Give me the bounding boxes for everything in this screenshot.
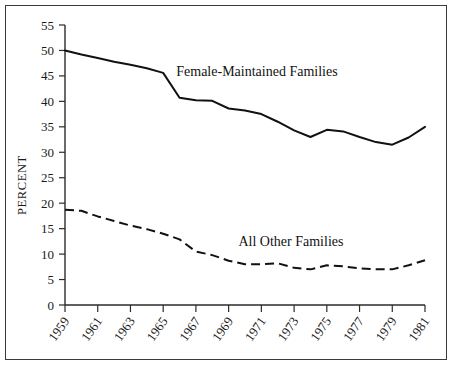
line-chart: 0510152025303540455055 19591961196319651… xyxy=(0,0,452,365)
y-tick-label: 20 xyxy=(41,196,54,211)
x-tick-labels: 1959196119631965196719691971197319751977… xyxy=(45,314,432,344)
y-axis: 0510152025303540455055 xyxy=(41,18,65,313)
series-label-0: Female-Maintained Families xyxy=(176,64,337,79)
y-tick-label: 45 xyxy=(41,68,54,83)
y-tick-label: 10 xyxy=(41,247,54,262)
x-tick-label: 1959 xyxy=(45,314,72,344)
y-tick-label: 30 xyxy=(41,145,54,160)
chart-figure: 0510152025303540455055 19591961196319651… xyxy=(0,0,452,365)
y-tick-label: 50 xyxy=(41,43,54,58)
x-tick-label: 1979 xyxy=(373,314,400,344)
x-tick-label: 1969 xyxy=(209,314,236,344)
y-tick-label: 25 xyxy=(41,170,54,185)
y-tick-label: 15 xyxy=(41,221,54,236)
y-tick-label: 35 xyxy=(41,119,54,134)
x-tick-label: 1977 xyxy=(340,314,367,344)
x-tick-label: 1963 xyxy=(111,314,138,344)
x-tick-label: 1975 xyxy=(307,314,334,344)
x-tick-marks xyxy=(65,305,425,312)
y-tick-label: 0 xyxy=(48,298,55,313)
y-tick-labels: 0510152025303540455055 xyxy=(41,18,54,313)
x-tick-label: 1971 xyxy=(242,314,269,344)
y-axis-title: PERCENT xyxy=(15,155,29,215)
series-annotations: Female-Maintained FamiliesAll Other Fami… xyxy=(176,64,343,249)
y-tick-label: 40 xyxy=(41,94,54,109)
x-tick-label: 1965 xyxy=(143,314,170,344)
x-tick-label: 1961 xyxy=(78,314,105,344)
x-tick-label: 1967 xyxy=(176,314,203,344)
series-label-1: All Other Families xyxy=(238,234,343,249)
x-axis: 1959196119631965196719691971197319751977… xyxy=(45,305,432,344)
y-tick-label: 55 xyxy=(41,18,54,33)
y-tick-marks xyxy=(59,25,65,305)
x-tick-label: 1973 xyxy=(274,314,301,344)
x-tick-label: 1981 xyxy=(405,314,432,344)
y-tick-label: 5 xyxy=(48,272,55,287)
